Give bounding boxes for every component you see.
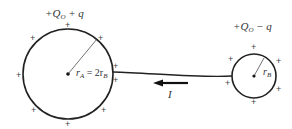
plus-sign: + bbox=[225, 78, 230, 88]
plus-sign: + bbox=[65, 20, 70, 30]
plus-sign: + bbox=[98, 33, 103, 43]
plus-sign: + bbox=[113, 75, 118, 85]
plus-sign: + bbox=[31, 105, 36, 115]
sphere-b-charge-label: +QO − q bbox=[233, 20, 272, 34]
plus-sign: + bbox=[113, 61, 118, 71]
plus-sign: + bbox=[65, 119, 70, 129]
plus-sign: + bbox=[251, 42, 256, 52]
plus-sign: + bbox=[276, 56, 281, 66]
sphere-b-radius-label: rB bbox=[263, 66, 272, 79]
two-sphere-diagram: +QO + q rA = 2rB +QO − q rB I + + + + + … bbox=[0, 0, 292, 129]
plus-sign: + bbox=[30, 33, 35, 43]
plus-sign: + bbox=[276, 84, 281, 94]
sphere-a-radius-label: rA = 2rB bbox=[76, 67, 108, 80]
connecting-wire bbox=[113, 72, 232, 76]
plus-sign: + bbox=[101, 105, 106, 115]
current-label: I bbox=[167, 88, 173, 100]
sphere-b-plus-signs: + + + + + + bbox=[225, 42, 281, 107]
current-arrow-icon bbox=[153, 80, 163, 87]
plus-sign: + bbox=[228, 54, 233, 64]
plus-sign: + bbox=[251, 97, 256, 107]
sphere-a-charge-label: +QO + q bbox=[45, 7, 84, 21]
plus-sign: + bbox=[16, 70, 21, 80]
